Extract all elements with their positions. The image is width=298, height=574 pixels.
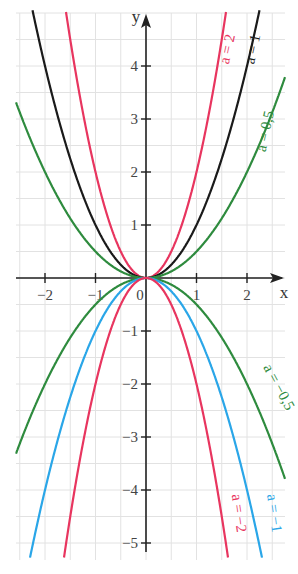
y-tick-label: −4 <box>122 482 138 498</box>
curve-label: a = 1 <box>241 33 263 66</box>
y-tick-label: 1 <box>131 217 139 233</box>
y-tick-label: −5 <box>122 535 138 551</box>
x-tick-label: 2 <box>243 287 251 303</box>
x-axis-label: x <box>280 283 289 302</box>
y-tick-label: 4 <box>131 58 139 74</box>
y-tick-label: −1 <box>122 323 138 339</box>
x-tick-label: −1 <box>88 287 104 303</box>
y-tick-label: −2 <box>122 376 138 392</box>
parabola-plot: −2−1120−5−4−3−2−11234xy a = 2a = 1a = 0,… <box>0 0 298 574</box>
y-tick-label: 3 <box>131 111 139 127</box>
x-tick-label: −2 <box>37 287 53 303</box>
curve-label: a = 0,5 <box>253 109 277 153</box>
curve-label: a = −0,5 <box>260 361 298 413</box>
origin-label: 0 <box>136 287 144 303</box>
y-axis-label: y <box>132 7 141 26</box>
y-tick-label: −3 <box>122 429 138 445</box>
curve-label: a = −1 <box>264 493 285 533</box>
y-tick-label: 2 <box>131 164 139 180</box>
curve-label: a = 2 <box>216 33 238 66</box>
